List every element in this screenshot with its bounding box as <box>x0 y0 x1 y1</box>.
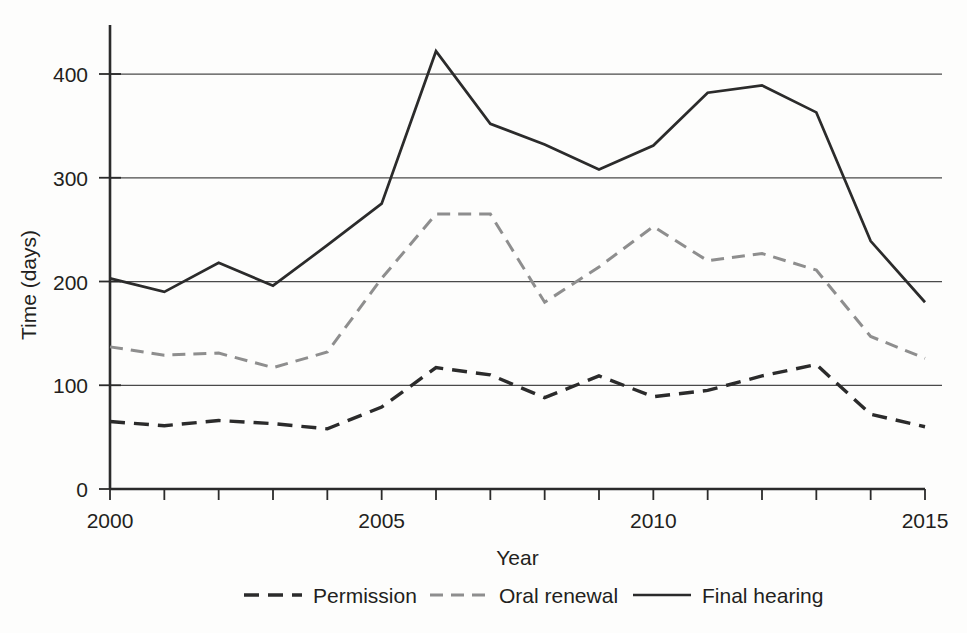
legend-item-permission[interactable]: Permission <box>244 584 417 607</box>
chart-page: 0100200300400 2000200520102015 Time (day… <box>0 0 967 633</box>
y-tick-label-100: 100 <box>53 374 88 397</box>
axes <box>110 25 925 489</box>
x-tick-label-2000: 2000 <box>87 509 134 532</box>
y-tick-labels: 0100200300400 <box>53 63 88 501</box>
legend-label-final-hearing: Final hearing <box>702 584 823 607</box>
x-tick-label-2010: 2010 <box>630 509 677 532</box>
series-line-oral-renewal <box>110 214 925 368</box>
y-tick-label-0: 0 <box>76 478 88 501</box>
legend-item-oral-renewal[interactable]: Oral renewal <box>430 584 618 607</box>
legend-label-permission: Permission <box>313 584 417 607</box>
y-tick-label-300: 300 <box>53 167 88 190</box>
chart-legend: PermissionOral renewalFinal hearing <box>244 584 823 607</box>
x-tick-label-2005: 2005 <box>358 509 405 532</box>
gridlines <box>110 74 942 385</box>
x-axis-title: Year <box>496 546 538 569</box>
data-series <box>110 51 925 429</box>
legend-label-oral-renewal: Oral renewal <box>499 584 618 607</box>
y-axis-title: Time (days) <box>17 230 40 340</box>
x-tick-labels: 2000200520102015 <box>87 509 949 532</box>
line-chart: 0100200300400 2000200520102015 Time (day… <box>0 0 967 633</box>
y-tick-label-400: 400 <box>53 63 88 86</box>
x-tick-label-2015: 2015 <box>902 509 949 532</box>
legend-item-final-hearing[interactable]: Final hearing <box>633 584 823 607</box>
series-line-permission <box>110 365 925 429</box>
y-tick-label-200: 200 <box>53 271 88 294</box>
